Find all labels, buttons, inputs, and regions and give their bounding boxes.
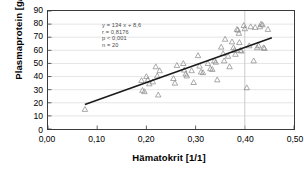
p-value: p < 0,001 [102,35,141,42]
data-point-marker [155,92,160,97]
regression-annotation: y = 134 x + 8,6 r = 0,8176 p < 0,001 n =… [102,22,141,48]
data-point-marker [265,27,270,32]
data-point-marker [189,68,194,73]
correlation-coefficient: r = 0,8176 [102,29,141,36]
data-point-marker [251,58,256,63]
data-point-marker [153,64,158,69]
data-point-marker [82,106,87,111]
x-tick-label: 0,40 [225,134,265,145]
data-point-marker [241,23,246,28]
data-point-marker [213,59,218,64]
data-point-marker [229,39,234,44]
y-tick-label: 60 [17,45,43,56]
data-point-marker [215,77,220,82]
data-point-marker [248,24,253,29]
y-tick-label: 50 [17,58,43,69]
x-tick-label: 0,30 [176,134,216,145]
y-tick-label: 70 [17,31,43,42]
x-tick-label: 0,00 [27,134,67,145]
regression-equation: y = 134 x + 8,6 [102,22,141,29]
y-axis-tick-labels: 0102030405060708090 [17,10,43,130]
y-tick-label: 90 [17,5,43,16]
scatter-chart-figure: Plasmaprotein [g/l] 0102030405060708090 … [0,0,304,174]
x-tick-label: 0,50 [275,134,304,145]
data-point-marker [171,76,176,81]
data-point-marker [184,73,189,78]
data-point-marker [174,63,179,68]
x-axis-title: Hämatokrit [1/1] [40,152,298,163]
data-point-marker [191,80,196,85]
data-point-marker [218,44,223,49]
data-point-marker [172,80,177,85]
y-tick-label: 20 [17,98,43,109]
data-point-marker [222,36,227,41]
y-tick-label: 30 [17,85,43,96]
y-tick-label: 80 [17,18,43,29]
data-point-marker [244,85,249,90]
x-tick-label: 0,20 [126,134,166,145]
y-tick-label: 40 [17,71,43,82]
x-axis-tick-labels: 0,000,100,200,300,400,50 [47,134,295,146]
plot-area: y = 134 x + 8,6 r = 0,8176 p < 0,001 n =… [47,10,295,130]
data-point-marker [242,26,247,31]
x-tick-label: 0,10 [77,134,117,145]
y-tick-label: 10 [17,111,43,122]
data-point-marker [237,40,242,45]
data-point-marker [221,58,226,63]
data-point-marker [195,53,200,58]
data-point-marker [227,64,232,69]
data-point-marker [181,61,186,66]
sample-size: n = 20 [102,42,141,49]
data-layer [48,11,294,129]
